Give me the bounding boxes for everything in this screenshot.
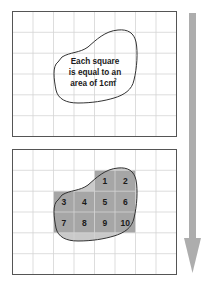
caption-line-3: area of 1cm	[70, 79, 116, 88]
square-label-7: 7	[61, 218, 66, 228]
square-label-3: 3	[61, 197, 66, 207]
square-label-9: 9	[102, 218, 107, 228]
square-label-1: 1	[102, 176, 107, 186]
square-label-6: 6	[123, 197, 128, 207]
area-diagram: Each square is equal to an area of 1cm 2	[0, 0, 201, 291]
square-label-10: 10	[121, 218, 131, 228]
down-arrow-icon	[184, 13, 201, 273]
square-label-8: 8	[82, 218, 87, 228]
bottom-grid-panel: 1 2 3 4 5 6 7 8 9 10	[13, 150, 177, 275]
top-grid-panel: Each square is equal to an area of 1cm 2	[13, 12, 177, 137]
square-label-2: 2	[123, 176, 128, 186]
caption-line-1: Each square	[71, 57, 120, 66]
square-label-4: 4	[82, 197, 87, 207]
caption-line-2: is equal to an	[69, 68, 121, 77]
square-label-5: 5	[102, 197, 107, 207]
